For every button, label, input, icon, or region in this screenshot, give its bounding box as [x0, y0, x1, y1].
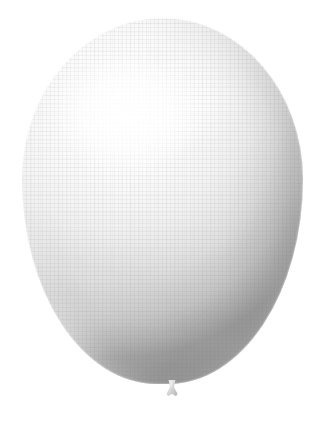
balloon-body — [22, 18, 303, 384]
image-canvas — [0, 0, 325, 424]
